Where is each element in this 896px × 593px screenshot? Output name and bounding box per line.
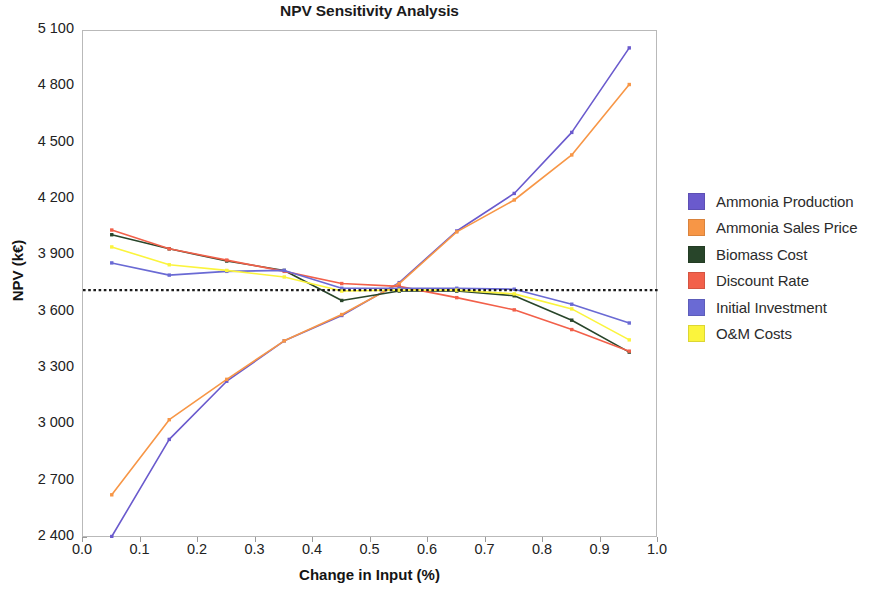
plot-area [82, 30, 657, 537]
series-marker [513, 192, 516, 195]
series-marker [110, 535, 113, 538]
series-line [112, 48, 630, 537]
y-axis-tick-label: 4 500 [12, 133, 74, 149]
legend-item: O&M Costs [688, 321, 893, 348]
legend-color-swatch [688, 325, 705, 342]
series-marker [570, 307, 573, 310]
x-axis-tick-label: 0.3 [230, 541, 280, 557]
series-marker [283, 339, 286, 342]
series-marker [628, 83, 631, 86]
series-marker [570, 318, 573, 321]
series-marker [455, 296, 458, 299]
x-axis-tick-label: 0.2 [172, 541, 222, 557]
series-marker [340, 289, 343, 292]
npv-sensitivity-chart: NPV Sensitivity Analysis 2 4002 7003 000… [0, 0, 896, 593]
series-marker [225, 269, 228, 272]
series-marker [628, 46, 631, 49]
series-line [112, 263, 630, 323]
series-marker [225, 258, 228, 261]
series-line [112, 247, 630, 340]
series-marker [168, 247, 171, 250]
series-marker [168, 418, 171, 421]
series-marker [110, 493, 113, 496]
x-axis-tick-mark [312, 537, 313, 542]
legend-item: Initial Investment [688, 294, 893, 321]
series-marker [570, 131, 573, 134]
y-axis-tick-label: 4 800 [12, 76, 74, 92]
series-marker [168, 273, 171, 276]
legend-color-swatch [688, 219, 705, 236]
legend-item-label: Biomass Cost [716, 246, 807, 263]
series-marker [513, 198, 516, 201]
series-marker [628, 349, 631, 352]
series-marker [340, 299, 343, 302]
chart-legend: Ammonia ProductionAmmonia Sales PriceBio… [688, 188, 893, 347]
legend-item-label: Initial Investment [716, 299, 827, 316]
y-axis-tick-label: 5 100 [12, 20, 74, 36]
x-axis-tick-label: 0.7 [460, 541, 510, 557]
legend-item: Discount Rate [688, 268, 893, 295]
x-axis-tick-mark [82, 537, 83, 542]
series-marker [628, 321, 631, 324]
series-marker [110, 245, 113, 248]
legend-item-label: Discount Rate [716, 272, 809, 289]
legend-color-swatch [688, 272, 705, 289]
y-axis-title: NPV (k€) [9, 201, 26, 341]
series-marker [455, 230, 458, 233]
series-marker [110, 233, 113, 236]
series-marker [628, 338, 631, 341]
x-axis-tick-label: 0.0 [57, 541, 107, 557]
x-axis-tick-label: 0.1 [115, 541, 165, 557]
x-axis-tick-mark [485, 537, 486, 542]
x-axis-tick-label: 0.6 [402, 541, 452, 557]
legend-item: Biomass Cost [688, 241, 893, 268]
series-marker [283, 275, 286, 278]
legend-item-label: O&M Costs [716, 325, 792, 342]
legend-item: Ammonia Production [688, 188, 893, 215]
legend-color-swatch [688, 193, 705, 210]
chart-title: NPV Sensitivity Analysis [82, 2, 657, 20]
x-axis-title: Change in Input (%) [82, 566, 657, 583]
y-axis-tick-label: 3 300 [12, 358, 74, 374]
series-marker [340, 282, 343, 285]
series-marker [513, 292, 516, 295]
series-plot [83, 31, 658, 538]
legend-color-swatch [688, 299, 705, 316]
x-axis-tick-mark [370, 537, 371, 542]
x-axis-tick-label: 0.9 [575, 541, 625, 557]
x-axis-tick-mark [427, 537, 428, 542]
y-axis-tick-label: 3 000 [12, 414, 74, 430]
series-marker [168, 438, 171, 441]
legend-item-label: Ammonia Production [716, 193, 853, 210]
series-marker [110, 228, 113, 231]
x-axis-tick-label: 1.0 [632, 541, 682, 557]
x-axis-tick-mark [657, 537, 658, 542]
y-axis-tick-label: 2 700 [12, 471, 74, 487]
series-marker [570, 303, 573, 306]
x-axis-tick-mark [542, 537, 543, 542]
legend-item-label: Ammonia Sales Price [716, 219, 858, 236]
x-axis-tick-mark [255, 537, 256, 542]
x-axis-tick-mark [197, 537, 198, 542]
legend-item: Ammonia Sales Price [688, 215, 893, 242]
series-marker [340, 313, 343, 316]
series-marker [110, 261, 113, 264]
series-marker [570, 153, 573, 156]
x-axis-tick-label: 0.8 [517, 541, 567, 557]
series-marker [513, 308, 516, 311]
x-axis-tick-label: 0.5 [345, 541, 395, 557]
x-axis-tick-mark [140, 537, 141, 542]
legend-color-swatch [688, 246, 705, 263]
x-axis-tick-mark [600, 537, 601, 542]
x-axis-tick-labels: 0.00.10.20.30.40.50.60.70.80.91.0 [82, 541, 657, 563]
series-marker [225, 378, 228, 381]
series-marker [168, 263, 171, 266]
x-axis-tick-label: 0.4 [287, 541, 337, 557]
series-marker [283, 269, 286, 272]
series-marker [570, 328, 573, 331]
